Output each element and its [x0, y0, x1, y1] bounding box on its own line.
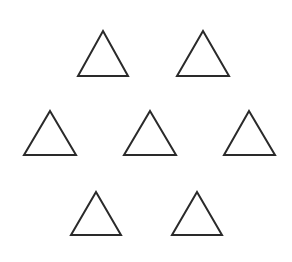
triangle-6 — [71, 192, 121, 235]
triangle-4 — [124, 111, 176, 155]
triangle-3 — [24, 111, 76, 155]
triangle-1 — [78, 31, 128, 76]
triangle-diagram — [0, 0, 292, 262]
triangle-group — [24, 31, 275, 235]
triangle-5 — [224, 111, 275, 155]
triangle-2 — [177, 31, 229, 76]
triangle-7 — [172, 192, 222, 235]
